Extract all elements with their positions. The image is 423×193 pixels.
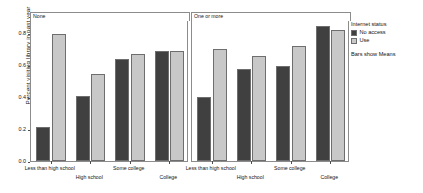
bars-group: [31, 21, 187, 161]
bar-chart: Percent visiting library in past year 0.…: [0, 0, 423, 193]
x-tick-mark: [212, 161, 213, 164]
panel-strip-none: None: [30, 12, 190, 21]
legend-label-use: Use: [360, 38, 370, 44]
x-tick-mark: [291, 161, 292, 164]
x-tick-label: Some college: [230, 166, 350, 171]
legend-swatch-no-access: [351, 30, 357, 36]
x-tick-mark: [330, 161, 331, 164]
legend-label-no-access: No access: [360, 30, 386, 36]
x-tick-mark: [130, 161, 131, 164]
panel-strip-label: One or more: [194, 14, 223, 19]
bar-no-access: [115, 59, 129, 161]
bar-use: [252, 56, 266, 161]
bar-use: [213, 49, 227, 161]
x-tick-label: College: [269, 175, 389, 180]
legend: Internet status No access Use Bars show …: [351, 22, 421, 58]
x-tick-mark: [51, 161, 52, 164]
legend-title: Internet status: [351, 22, 421, 28]
bar-use: [131, 54, 145, 161]
y-tick-label: 0.0: [12, 159, 26, 164]
x-tick-mark: [169, 161, 170, 164]
bar-use: [170, 51, 184, 161]
legend-note: Bars show Means: [351, 52, 421, 58]
panel-strip-one-or-more: One or more: [191, 12, 351, 21]
bar-no-access: [276, 66, 290, 161]
y-tick-label: 0.2: [12, 127, 26, 132]
x-tick-mark: [90, 161, 91, 164]
bar-use: [331, 30, 345, 161]
bar-no-access: [36, 127, 50, 161]
bar-no-access: [76, 96, 90, 161]
bar-no-access: [155, 51, 169, 161]
legend-item-use[interactable]: Use: [351, 38, 421, 44]
panel-strip-label: None: [33, 14, 45, 19]
bar-no-access: [237, 69, 251, 161]
bar-use: [52, 34, 66, 161]
y-tick-mark: [28, 162, 31, 163]
y-tick-label: 0.8: [12, 31, 26, 36]
bar-use: [292, 46, 306, 161]
panel-none: None: [30, 21, 188, 162]
legend-item-no-access[interactable]: No access: [351, 30, 421, 36]
bar-no-access: [197, 97, 211, 161]
bars-group: [192, 21, 348, 161]
panel-one-or-more: One or more: [191, 21, 349, 162]
y-tick-label: 0.6: [12, 63, 26, 68]
x-tick-mark: [251, 161, 252, 164]
bar-no-access: [316, 26, 330, 161]
y-tick-label: 0.4: [12, 95, 26, 100]
legend-swatch-use: [351, 38, 357, 44]
bar-use: [91, 74, 105, 161]
